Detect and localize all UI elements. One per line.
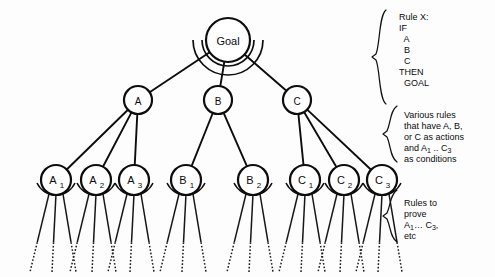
leaf-stem-node-c1-1	[286, 194, 298, 242]
edge-node-c-to-node-c3	[307, 110, 371, 170]
leaf-stem-node-b2-1	[234, 194, 246, 242]
node-c1-label: C	[298, 174, 306, 186]
edge-node-c-to-node-c1	[298, 114, 303, 165]
leaf-stem-dotted-node-c2-2	[340, 242, 342, 272]
edge-goal-to-node-c	[245, 54, 287, 90]
leaf-stem-node-c1-3	[312, 194, 320, 242]
node-c3: C3	[367, 165, 397, 195]
node-a3-label: A	[127, 174, 135, 186]
node-c2-label: C	[337, 174, 345, 186]
node-a1-label: A	[49, 174, 57, 186]
leaf-stem-node-b2-3	[260, 194, 268, 242]
leaf-stem-node-a1-1	[37, 194, 49, 242]
leaf-stem-dotted-node-b2-3	[268, 242, 273, 272]
rule-x-annotation-line-5: C	[399, 56, 429, 67]
rule-x-annotation-line-1: Rule X:	[399, 12, 429, 23]
leaf-stem-node-a2-2	[94, 194, 96, 242]
node-b-label: B	[215, 96, 222, 107]
leaf-stem-node-c2-2	[342, 194, 344, 242]
node-c2-subscript: 2	[348, 181, 353, 190]
leaf-stem-node-a1-2	[54, 194, 56, 242]
node-c1: C1	[290, 165, 320, 195]
rules-to-prove-annotation-line-1: Rules to	[404, 198, 438, 209]
rule-x-annotation: Rule X:IF A B CTHEN GOAL	[399, 12, 429, 89]
leaf-stem-node-b1-3	[193, 194, 201, 242]
rule-x-annotation-line-2: IF	[399, 23, 429, 34]
leaf-stem-node-a3-1	[115, 194, 127, 242]
node-c3-subscript: 3	[386, 181, 391, 190]
leaf-stem-node-c3-2	[380, 194, 382, 242]
node-a2-label: A	[89, 174, 97, 186]
diagram-canvas: GoalABCA1A2A3B1B2C1C2C3 Rule X:IF A B CT…	[0, 0, 495, 277]
various-rules-annotation-line-4: and A1 .. C3	[404, 143, 464, 154]
node-a1-subscript: 1	[60, 181, 65, 190]
leaf-stem-dotted-node-b1-2	[182, 242, 184, 272]
rules-to-prove-annotation-line-3: A1… C3,	[404, 220, 438, 231]
leaf-stem-node-c2-1	[325, 194, 337, 242]
leaf-stem-dotted-node-c1-1	[279, 242, 286, 272]
node-a-label: A	[135, 96, 142, 107]
braces-layer	[372, 10, 397, 242]
leaf-stem-node-a3-3	[141, 194, 149, 242]
goal: Goal	[206, 18, 250, 62]
node-b1-label: B	[179, 174, 186, 186]
node-a: A	[124, 86, 152, 114]
leaf-stem-node-c2-3	[351, 194, 359, 242]
node-b2: B2	[238, 165, 268, 195]
node-b2-subscript: 2	[257, 181, 262, 190]
leaf-stem-node-a2-1	[77, 194, 89, 242]
rule-x-annotation-line-7: GOAL	[399, 78, 429, 89]
node-b1-subscript: 1	[190, 181, 195, 190]
leaf-stem-node-c3-1	[363, 194, 375, 242]
edge-node-a-to-node-a1	[67, 110, 128, 170]
node-a1: A1	[41, 165, 71, 195]
node-a2-subscript: 2	[100, 181, 105, 190]
various-rules-annotation-line-1: Various rules	[404, 110, 464, 121]
leaf-stem-dotted-node-c3-3	[397, 242, 402, 272]
leaf-stem-node-a3-2	[132, 194, 134, 242]
leaf-stem-dotted-node-a1-1	[30, 242, 37, 272]
leaf-stem-node-b1-2	[184, 194, 186, 242]
node-c1-subscript: 1	[309, 181, 314, 190]
brace-various-rules	[383, 106, 397, 162]
leaf-stem-dotted-node-a3-2	[130, 242, 132, 272]
leaf-stem-dotted-node-b1-3	[201, 242, 206, 272]
rules-to-prove-annotation-line-2: prove	[404, 209, 438, 220]
leaf-stem-dotted-node-c3-2	[378, 242, 380, 272]
rule-x-annotation-line-6: THEN	[399, 67, 429, 78]
node-b2-label: B	[246, 174, 253, 186]
rules-to-prove-annotation: Rules toproveA1… C3,etc	[404, 198, 438, 242]
leaf-stem-dotted-node-b2-2	[249, 242, 251, 272]
leaf-stem-node-b1-1	[167, 194, 179, 242]
node-a2: A2	[81, 165, 111, 195]
leaf-stem-node-a2-3	[103, 194, 111, 242]
leaf-stems-layer	[30, 183, 402, 272]
brace-rule-x	[372, 10, 386, 104]
node-a3-subscript: 3	[138, 181, 143, 190]
leaf-stem-dotted-node-b2-1	[227, 242, 234, 272]
various-rules-annotation-line-5: as conditions	[404, 154, 464, 165]
rule-x-annotation-line-4: B	[399, 45, 429, 56]
leaf-stem-node-b2-2	[251, 194, 253, 242]
various-rules-annotation-line-2: that have A, B,	[404, 121, 464, 132]
leaf-stem-dotted-node-a2-2	[92, 242, 94, 272]
nodes-layer: GoalABCA1A2A3B1B2C1C2C3	[41, 18, 397, 195]
leaf-stem-dotted-node-a1-2	[52, 242, 54, 272]
edge-node-b-to-node-b1	[192, 113, 213, 166]
rule-x-annotation-line-3: A	[399, 34, 429, 45]
edge-node-b-to-node-b2	[224, 113, 247, 166]
node-c: C	[283, 86, 311, 114]
edge-node-c-to-node-c2	[304, 112, 336, 167]
leaf-stem-dotted-node-a3-3	[149, 242, 154, 272]
node-c3-label: C	[375, 174, 383, 186]
node-c2: C2	[329, 165, 359, 195]
edge-goal-to-node-a	[150, 52, 210, 92]
rules-to-prove-annotation-line-4: etc	[404, 231, 438, 242]
leaf-stem-node-a1-3	[63, 194, 71, 242]
leaf-stem-dotted-node-c1-2	[301, 242, 303, 272]
node-b1: B1	[171, 165, 201, 195]
various-rules-annotation: Various rulesthat have A, B,or C as acti…	[404, 110, 464, 165]
edge-node-a-to-node-a3	[135, 114, 138, 165]
node-b: B	[204, 86, 232, 114]
node-a3: A3	[119, 165, 149, 195]
